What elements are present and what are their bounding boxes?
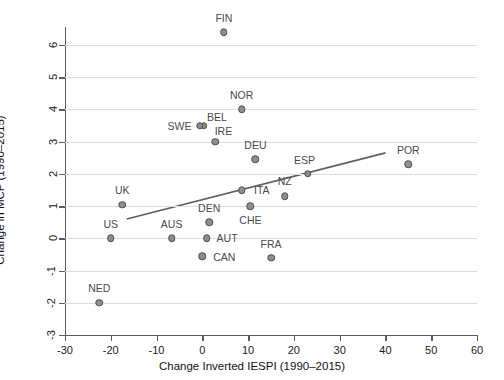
- y-axis-title-label: Change in MCP (1990–2015): [0, 115, 6, 264]
- data-point-label-den: DEN: [198, 202, 220, 214]
- x-tick: [385, 335, 386, 341]
- gridline: [65, 174, 477, 175]
- x-tick: [294, 335, 295, 341]
- data-point-swe[interactable]: [196, 122, 204, 130]
- data-point-label-aus: AUS: [161, 218, 183, 230]
- data-point-nor[interactable]: [238, 106, 246, 114]
- data-point-label-fin: FIN: [215, 12, 232, 24]
- data-point-uk[interactable]: [118, 201, 126, 209]
- y-tick-label: 6: [47, 42, 59, 48]
- x-tick: [65, 335, 66, 341]
- data-point-us[interactable]: [107, 235, 115, 243]
- y-tick-label: -3: [45, 330, 57, 340]
- gridline: [65, 142, 477, 143]
- gridline: [65, 271, 477, 272]
- x-tick-label: 0: [199, 344, 205, 356]
- data-point-den[interactable]: [205, 218, 213, 226]
- x-tick: [340, 335, 341, 341]
- x-tick: [248, 335, 249, 341]
- data-point-aus[interactable]: [168, 235, 176, 243]
- data-point-label-esp: ESP: [294, 154, 315, 166]
- x-tick-label: 40: [379, 344, 391, 356]
- data-point-label-swe: SWE: [167, 120, 191, 132]
- y-tick: [59, 238, 65, 239]
- data-point-label-ita: ITA: [254, 184, 270, 196]
- x-axis-title-label: Change Inverted IESPI (1990–2015): [159, 360, 345, 372]
- data-point-label-ire: IRE: [215, 125, 233, 137]
- y-tick: [59, 109, 65, 110]
- y-tick: [59, 174, 65, 175]
- data-point-esp[interactable]: [304, 170, 312, 178]
- x-tick-label: 50: [425, 344, 437, 356]
- y-tick-label: 3: [47, 139, 59, 145]
- x-tick-label: 30: [334, 344, 346, 356]
- y-tick: [59, 206, 65, 207]
- y-axis-title: Change in MCP (1990–2015): [0, 41, 12, 190]
- data-point-label-che: CHE: [239, 214, 261, 226]
- y-tick-label: -1: [45, 266, 57, 276]
- x-axis-title: Change Inverted IESPI (1990–2015): [0, 360, 504, 372]
- y-tick-label: 4: [47, 106, 59, 112]
- x-tick-label: 20: [288, 344, 300, 356]
- data-point-nz[interactable]: [281, 193, 289, 201]
- data-point-ned[interactable]: [96, 299, 104, 307]
- y-tick: [59, 271, 65, 272]
- data-point-label-uk: UK: [115, 184, 130, 196]
- y-tick-label: 5: [47, 74, 59, 80]
- data-point-ire[interactable]: [211, 138, 219, 146]
- data-point-label-deu: DEU: [244, 139, 266, 151]
- data-point-label-can: CAN: [213, 251, 235, 263]
- data-point-deu[interactable]: [252, 156, 260, 164]
- x-tick: [431, 335, 432, 341]
- data-point-fin[interactable]: [220, 28, 228, 36]
- data-point-fra[interactable]: [267, 254, 275, 262]
- x-tick-label: 10: [242, 344, 254, 356]
- data-point-can[interactable]: [199, 252, 207, 260]
- x-tick: [477, 335, 478, 341]
- gridline: [65, 77, 477, 78]
- data-point-che[interactable]: [247, 202, 255, 210]
- data-point-label-us: US: [103, 218, 118, 230]
- gridline: [65, 303, 477, 304]
- x-tick-label: -20: [103, 344, 119, 356]
- x-tick-label: 60: [471, 344, 483, 356]
- data-point-label-nor: NOR: [230, 89, 253, 101]
- y-tick: [59, 142, 65, 143]
- gridline: [65, 206, 477, 207]
- y-tick: [59, 77, 65, 78]
- x-tick-label: -10: [149, 344, 165, 356]
- gridline: [65, 45, 477, 46]
- data-point-aut[interactable]: [203, 235, 211, 243]
- data-point-label-nz: NZ: [278, 175, 292, 187]
- scatter-plot: -3-2-10123456-30-20-100102030405060FINNO…: [0, 0, 504, 380]
- data-point-ita[interactable]: [238, 186, 246, 194]
- plot-area: -3-2-10123456-30-20-100102030405060FINNO…: [65, 45, 477, 335]
- y-tick: [59, 45, 65, 46]
- gridline: [65, 109, 477, 110]
- y-tick: [59, 303, 65, 304]
- y-tick-label: 0: [47, 235, 59, 241]
- x-tick: [202, 335, 203, 341]
- data-point-por[interactable]: [405, 160, 413, 168]
- data-point-label-fra: FRA: [261, 238, 282, 250]
- data-point-label-aut: AUT: [217, 232, 238, 244]
- data-point-label-bel: BEL: [207, 111, 227, 123]
- x-tick: [111, 335, 112, 341]
- data-point-label-ned: NED: [88, 282, 110, 294]
- y-tick-label: 1: [47, 203, 59, 209]
- x-tick: [157, 335, 158, 341]
- y-tick-label: 2: [47, 171, 59, 177]
- data-point-label-por: POR: [397, 144, 420, 156]
- x-tick-label: -30: [57, 344, 73, 356]
- x-axis-line: [65, 335, 477, 336]
- y-tick-label: -2: [45, 298, 57, 308]
